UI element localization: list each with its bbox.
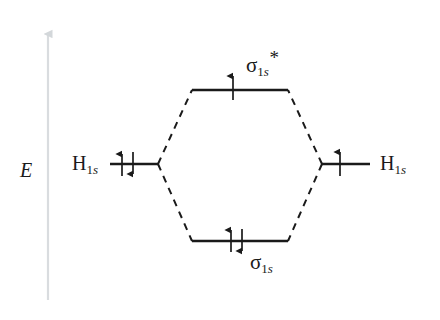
mo-label-antibonding: σ1s* [246,48,279,78]
ao-label-left-sub-letter: s [93,162,98,177]
ao-label-right: H1s [380,153,406,176]
mo-label-antibonding-star: * [269,47,279,68]
mo-label-bonding-subscript: 1s [261,261,273,276]
correlation-lines [158,90,322,241]
correlation-line-right-antibonding [288,90,322,164]
mo-label-bonding-sub-letter: s [268,261,273,276]
ao-label-right-subscript: 1s [394,162,406,177]
ao-label-right-symbol: H [380,152,394,174]
energy-levels [110,90,370,241]
ao-label-left: H1s [72,153,98,176]
mo-label-bonding-symbol: σ [250,250,261,274]
correlation-line-left-bonding [158,164,192,241]
ao-label-left-subscript: 1s [86,162,98,177]
mo-label-antibonding-subscript: 1s [257,64,269,79]
mo-label-bonding: σ1s [250,252,273,275]
correlation-line-right-bonding [288,164,322,241]
energy-axis-label: E [20,160,33,180]
ao-label-left-symbol: H [72,152,86,174]
diagram-canvas [0,0,440,320]
ao-label-right-sub-letter: s [401,162,406,177]
correlation-line-left-antibonding [158,90,192,164]
mo-label-antibonding-symbol: σ [246,53,257,77]
mo-energy-diagram: E H1s H1s σ1s* σ1s [0,0,440,320]
